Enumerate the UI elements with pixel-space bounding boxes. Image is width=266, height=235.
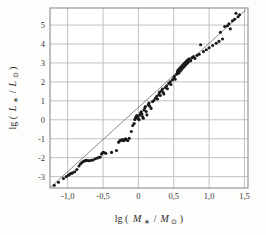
data-point: [211, 44, 214, 47]
data-point: [142, 117, 145, 120]
y-title-denominator-sub: ⊙: [12, 72, 19, 78]
y-title-suffix: ): [7, 67, 19, 70]
x-title-suffix: ): [180, 213, 183, 225]
x-tick-label: 1,5: [239, 191, 250, 201]
x-title-denominator-sub: ⊙: [171, 218, 177, 225]
data-point: [166, 87, 169, 90]
data-point: [227, 22, 230, 25]
data-point: [99, 155, 102, 158]
y-tick-label: 1: [41, 96, 45, 106]
data-point: [223, 25, 226, 28]
data-point: [208, 46, 211, 49]
data-point: [169, 83, 172, 86]
x-title-prefix: lg (: [115, 213, 129, 225]
x-title-numerator: M: [132, 213, 142, 224]
data-point: [104, 152, 107, 155]
data-point: [193, 57, 196, 60]
data-point: [75, 168, 78, 171]
data-point: [234, 12, 237, 15]
data-point: [138, 118, 141, 121]
scatter-plot: -1,0-0,500,51,01,5 543210-1-2-3 lg ( M ∗…: [0, 0, 266, 235]
x-title-denominator: M: [160, 213, 170, 224]
y-tick-label: 2: [41, 77, 45, 87]
y-tick-label: -2: [38, 153, 45, 163]
data-point: [133, 122, 136, 125]
data-point: [115, 149, 118, 152]
data-point: [238, 13, 241, 16]
data-point: [233, 18, 236, 21]
data-point: [145, 113, 148, 116]
data-point: [57, 181, 60, 184]
data-point: [150, 107, 153, 110]
data-point: [202, 50, 205, 53]
data-point: [174, 78, 177, 81]
data-point: [199, 43, 202, 46]
data-point: [140, 113, 143, 116]
mass-luminosity-figure: -1,0-0,500,51,01,5 543210-1-2-3 lg ( M ∗…: [0, 0, 266, 235]
data-point: [53, 184, 56, 187]
data-point: [145, 110, 148, 113]
data-point: [110, 151, 113, 154]
x-tick-label: 1,0: [204, 191, 215, 201]
data-point: [62, 177, 65, 180]
y-tick-label: 5: [41, 20, 45, 30]
y-title-slash: /: [7, 90, 18, 93]
data-point: [128, 137, 131, 140]
y-tick-label: -1: [38, 134, 45, 144]
data-point: [144, 105, 147, 108]
y-title-numerator: L: [7, 105, 18, 112]
data-point: [189, 59, 192, 62]
data-point: [130, 130, 133, 133]
x-title-numerator-sub: ∗: [144, 218, 150, 225]
data-point: [73, 170, 76, 173]
y-title-denominator: L: [7, 80, 18, 87]
data-point: [219, 31, 222, 34]
x-title-slash: /: [154, 213, 157, 224]
y-tick-label: 0: [41, 115, 45, 125]
x-tick-label: 0,5: [168, 191, 179, 201]
data-point: [165, 84, 168, 87]
data-point: [156, 97, 159, 100]
y-tick-label: -3: [38, 172, 45, 182]
data-point: [198, 53, 201, 56]
y-title-numerator-sub: ∗: [12, 97, 19, 103]
y-tick-label: 3: [41, 58, 45, 68]
data-point: [229, 27, 232, 30]
data-point: [221, 38, 224, 41]
data-point: [159, 94, 162, 97]
data-point: [215, 42, 218, 45]
data-point: [147, 102, 150, 105]
data-point: [161, 88, 164, 91]
x-tick-label: -0,5: [96, 191, 109, 201]
y-title-prefix: lg (: [7, 115, 19, 129]
x-tick-label: 0: [136, 191, 140, 201]
data-point: [162, 92, 165, 95]
x-tick-label: -1,0: [61, 191, 74, 201]
data-point: [205, 48, 208, 51]
data-point: [217, 40, 220, 43]
